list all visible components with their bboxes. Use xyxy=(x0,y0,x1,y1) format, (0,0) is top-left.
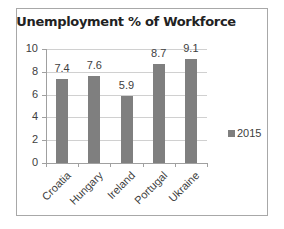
y-tick-label: 6 xyxy=(18,88,38,100)
y-tick-label: 10 xyxy=(18,42,38,54)
x-tick xyxy=(78,163,79,167)
data-label: 9.1 xyxy=(175,42,207,54)
x-tick xyxy=(207,163,208,167)
y-tick-label: 8 xyxy=(18,65,38,77)
x-tick xyxy=(46,163,47,167)
x-tick xyxy=(175,163,176,167)
y-tick-label: 0 xyxy=(18,156,38,168)
data-label: 7.6 xyxy=(78,59,110,71)
x-axis xyxy=(46,163,207,164)
bar-portugal xyxy=(153,64,165,163)
bar-croatia xyxy=(56,79,68,163)
bar-hungary xyxy=(88,76,100,163)
legend-label: 2015 xyxy=(237,127,261,139)
legend-swatch xyxy=(228,130,235,137)
bar-ukraine xyxy=(185,59,197,163)
bar-ireland xyxy=(121,96,133,163)
data-label: 8.7 xyxy=(143,47,175,59)
y-tick-label: 4 xyxy=(18,110,38,122)
x-tick xyxy=(143,163,144,167)
y-tick-label: 2 xyxy=(18,133,38,145)
chart-title: Unemployment % of Workforce xyxy=(16,14,236,29)
x-tick xyxy=(110,163,111,167)
legend: 2015 xyxy=(228,127,261,139)
data-label: 5.9 xyxy=(111,79,143,91)
plot-area: 02468107.4Croatia7.6Hungary5.9Ireland8.7… xyxy=(46,49,207,163)
data-label: 7.4 xyxy=(46,62,78,74)
